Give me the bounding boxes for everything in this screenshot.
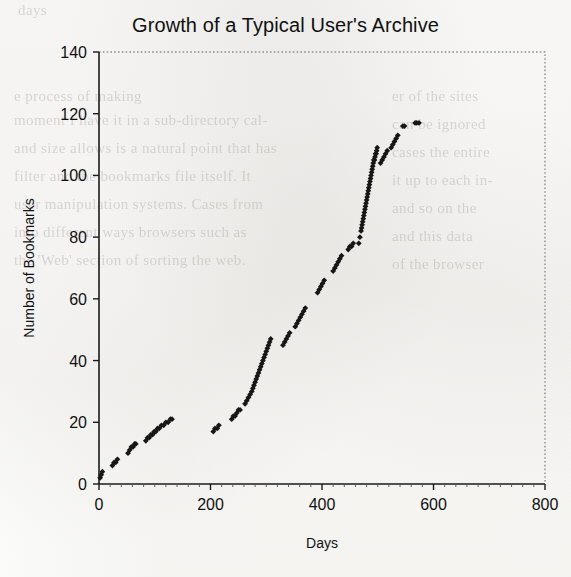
x-tick-label: 400	[309, 496, 336, 513]
data-point	[356, 240, 362, 246]
y-tick-label: 120	[60, 106, 87, 123]
y-tick-label: 140	[60, 44, 87, 61]
y-tick-label: 100	[60, 167, 87, 184]
x-tick-label: 600	[420, 496, 447, 513]
x-tick-label: 800	[532, 496, 559, 513]
x-tick-label: 0	[95, 496, 104, 513]
y-axis-title: Number of Bookmarks	[21, 198, 37, 337]
chart-figure: Growth of a Typical User's Archive 02004…	[0, 0, 571, 577]
x-tick-label: 200	[197, 496, 224, 513]
x-axis-title: Days	[306, 535, 338, 551]
y-tick-label: 0	[78, 476, 87, 493]
data-point-group	[97, 120, 422, 481]
y-tick-labels: 020406080100120140	[60, 44, 87, 493]
scatter-plot: 0200400600800 020406080100120140 Days Nu…	[0, 0, 571, 577]
y-tick-label: 80	[69, 229, 87, 246]
data-point	[357, 234, 363, 240]
y-tick-label: 20	[69, 414, 87, 431]
x-tick-labels: 0200400600800	[95, 496, 559, 513]
plot-frame	[99, 52, 545, 484]
y-tick-label: 60	[69, 291, 87, 308]
y-tick-label: 40	[69, 353, 87, 370]
